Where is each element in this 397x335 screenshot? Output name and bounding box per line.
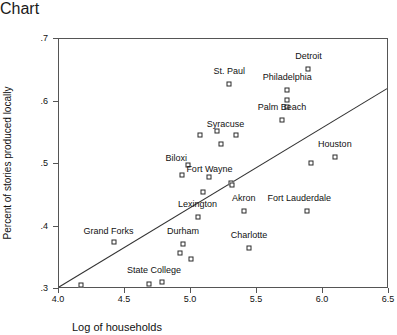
data-point	[332, 154, 337, 159]
data-point	[179, 172, 184, 177]
data-point	[241, 208, 246, 213]
data-point	[306, 67, 311, 72]
x-tick-label: 6.0	[316, 294, 329, 304]
x-tick-mark	[58, 288, 59, 293]
data-point	[200, 190, 205, 195]
data-point	[146, 282, 151, 287]
data-point	[305, 208, 310, 213]
data-point	[285, 88, 290, 93]
point-label: State College	[127, 265, 181, 275]
point-label: Lexington	[178, 199, 217, 209]
y-tick-label: .6	[40, 96, 48, 106]
y-tick-label: .4	[40, 221, 48, 231]
data-point	[178, 250, 183, 255]
point-label: Philadelphia	[263, 72, 312, 82]
data-point	[233, 132, 238, 137]
point-label: Fort Wayne	[186, 164, 232, 174]
point-label: Palm Beach	[258, 102, 307, 112]
x-tick-mark	[388, 288, 389, 293]
data-point	[207, 174, 212, 179]
data-point	[229, 183, 234, 188]
y-tick-label: .3	[40, 283, 48, 293]
x-tick-label: 5.0	[184, 294, 197, 304]
point-label: Houston	[318, 139, 352, 149]
point-label: Durham	[167, 226, 199, 236]
x-tick-label: 5.5	[250, 294, 263, 304]
data-point	[215, 128, 220, 133]
data-point	[79, 283, 84, 288]
data-point	[195, 214, 200, 219]
x-tick-mark	[190, 288, 191, 293]
x-tick-label: 4.5	[118, 294, 131, 304]
point-label: Syracuse	[207, 119, 245, 129]
data-point	[198, 132, 203, 137]
point-label: St. Paul	[214, 66, 246, 76]
x-tick-mark	[124, 288, 125, 293]
x-tick-label: 4.0	[52, 294, 65, 304]
data-point	[280, 117, 285, 122]
x-tick-label: 6.5	[382, 294, 395, 304]
point-label: Charlotte	[231, 230, 268, 240]
y-tick-label: .5	[40, 158, 48, 168]
scatter-chart: Percent of stories produced locally .3.4…	[0, 18, 397, 335]
y-tick-label: .7	[40, 33, 48, 43]
point-label: Akron	[232, 193, 256, 203]
point-label: Detroit	[295, 51, 322, 61]
data-point	[309, 161, 314, 166]
data-point	[159, 280, 164, 285]
x-tick-mark	[256, 288, 257, 293]
x-axis-title: Log of households	[72, 321, 162, 333]
data-point	[247, 245, 252, 250]
data-point	[219, 142, 224, 147]
x-tick-mark	[322, 288, 323, 293]
point-label: Biloxi	[166, 153, 188, 163]
point-label: Fort Lauderdale	[267, 193, 331, 203]
data-point	[227, 82, 232, 87]
data-point	[181, 242, 186, 247]
y-axis-title: Percent of stories produced locally	[2, 87, 13, 240]
data-point	[189, 257, 194, 262]
plot-area: DetroitSt. PaulPhiladelphiaPalm BeachSyr…	[58, 38, 388, 288]
point-label: Grand Forks	[83, 226, 133, 236]
data-point	[112, 240, 117, 245]
